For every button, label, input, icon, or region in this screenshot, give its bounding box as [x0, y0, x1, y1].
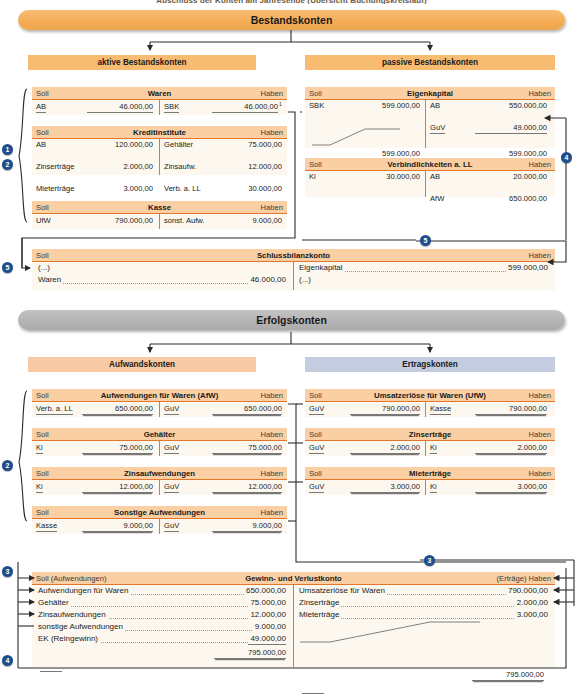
sbk-credit-label: Eigenkapital [299, 263, 345, 272]
label-haben: Haben [529, 89, 551, 98]
marker-2-left[interactable]: 2 [2, 460, 13, 471]
account-eigenkapital-body: SBK 599.000,00 AB 550.000,00 GuV 49.000,… [305, 100, 555, 148]
subheader-ertragskonten: Ertragskonten [305, 357, 555, 372]
label-haben: Haben [529, 251, 551, 260]
cell-credit-text: Gehälter [164, 140, 193, 149]
cell-debit-value: 30.000,00 [350, 172, 420, 181]
account-mietertraege-header: Soll Mieterträge Haben [305, 467, 555, 480]
account-kreditinstitute-body: AB 120.000,00 Gehälter 75.000,00 Zinsert… [32, 139, 287, 175]
label-soll: Soll [309, 469, 322, 478]
subheader-aktive-label: aktive Bestandskonten [97, 58, 186, 67]
cell-credit-value: 2.000,00 [475, 443, 547, 454]
cell-debit-text: GuV [309, 443, 324, 454]
account-verbindlichkeiten-header: Soll Verbindlichkeiten a. LL Haben [305, 158, 555, 171]
banner-erfolgskonten-label: Erfolgskonten [256, 314, 327, 326]
cell-credit-text: Ki [430, 482, 437, 493]
guv-credit-label: Zinserträge [299, 598, 341, 607]
account-sonstige-aufwendungen-body: Kasse 9.000,00 GuV 9.000,00 [32, 519, 287, 534]
guv-debit-label: sonstige Aufwendungen [38, 622, 125, 631]
account-kasse-header: Soll Kasse Haben [32, 201, 287, 214]
cell-credit-value: 49.000,00 [475, 123, 547, 134]
marker-4-right[interactable]: 4 [561, 152, 572, 163]
account-zinsaufwendungen: Soll Zinsaufwendungen Haben Ki 12.000,00… [32, 467, 287, 495]
cell-debit-value: 3.000,00 [350, 482, 420, 493]
guv-debit-row: Gehälter 75.000,00 [38, 598, 286, 610]
banner-bestandskonten-label: Bestandskonten [251, 14, 333, 26]
cell-credit-text: AfW [430, 194, 444, 203]
guv-credit-value: 2.000,00 [515, 598, 548, 607]
account-verbindlichkeiten-title: Verbindlichkeiten a. LL [305, 160, 555, 169]
marker-3-left[interactable]: 3 [2, 566, 13, 577]
cell-credit-text: GuV [164, 443, 179, 454]
cell-credit-value: 650.000,00 [212, 404, 282, 415]
marker-4-left[interactable]: 4 [2, 655, 13, 666]
cell-credit-text: Kasse [430, 404, 451, 415]
account-kasse-title: Kasse [32, 203, 287, 212]
account-eigenkapital: Soll Eigenkapital Haben SBK 599.000,00 A… [305, 87, 555, 148]
cell-debit-value: 790.000,00 [82, 216, 153, 225]
banner-bestandskonten: Bestandskonten [18, 10, 565, 30]
account-afw-header: Soll Aufwendungen für Waren (AfW) Haben [32, 389, 287, 402]
account-sonstige-aufwendungen-header: Soll Sonstige Aufwendungen Haben [32, 506, 287, 519]
marker-5-top[interactable]: 5 [420, 235, 431, 246]
account-guv-title: Gewinn- und Verlustkonto [32, 574, 555, 583]
cell-credit-text: GuV [164, 482, 179, 493]
account-sonstige-aufwendungen: Soll Sonstige Aufwendungen Haben Kasse 9… [32, 506, 287, 534]
account-kreditinstitute-title: Kreditinstitute [32, 128, 287, 137]
label-haben: Haben [261, 391, 283, 400]
cell-debit-value: 2.000,00 [82, 162, 153, 171]
cell-debit-text: UfW [36, 216, 51, 225]
sbk-credit-row: Eigenkapital 599.000,00 [299, 263, 548, 275]
marker-2[interactable]: 2 [2, 159, 13, 170]
account-afw-body: Verb. a. LL 650.000,00 GuV 650.000,00 [32, 402, 287, 417]
account-zinsertraege-title: Zinserträge [305, 430, 555, 439]
account-mietertraege-title: Mieterträge [305, 469, 555, 478]
cell-credit-value: 790.000,00 [475, 404, 547, 415]
account-waren: Soll Waren Haben AB 46.000,00 SBK 46.000… [32, 87, 287, 115]
guv-credit-row: Umsatzerlöse für Waren 790.000,00 [299, 586, 548, 598]
account-waren-title: Waren [32, 89, 287, 98]
label-ertraege-haben: (Erträge) Haben [497, 574, 551, 583]
marker-5-left[interactable]: 5 [2, 262, 13, 273]
cell-debit-value: 650.000,00 [82, 404, 153, 415]
sbk-credit-row: (...) [299, 275, 548, 287]
label-haben: Haben [261, 430, 283, 439]
account-schlussbilanzkonto-body: (...) Waren 46.000,00 Eigenkapital 599.0… [32, 262, 555, 290]
marker-1[interactable]: 1 [2, 144, 13, 155]
cell-credit-text: sonst. Aufw. [164, 216, 205, 225]
account-guv-header: Soll (Aufwendungen) Gewinn- und Verlustk… [32, 572, 555, 585]
label-haben: Haben [261, 128, 283, 137]
guv-debit-value: 49.000,00 [248, 634, 286, 645]
label-soll: Soll [36, 508, 49, 517]
label-soll: Soll [36, 203, 49, 212]
cell-credit-value: 12.000,00 [212, 162, 282, 171]
guv-debit-label: Gehälter [38, 598, 71, 607]
account-gehaelter-body: Ki 75.000,00 GuV 75.000,00 [32, 441, 287, 456]
label-soll: Soll [309, 391, 322, 400]
subheader-aufwandskonten: Aufwandskonten [28, 357, 256, 372]
label-soll: Soll [309, 430, 322, 439]
account-zinsaufwendungen-body: Ki 12.000,00 GuV 12.000,00 [32, 480, 287, 495]
cell-debit-text: Mieterträge [36, 184, 74, 193]
account-afw: Soll Aufwendungen für Waren (AfW) Haben … [32, 389, 287, 417]
cell-credit-value: 9.000,00 [212, 216, 282, 225]
cell-debit-text: Zinserträge [36, 162, 74, 171]
cell-debit-text: AB [36, 140, 46, 149]
guv-debit-label: EK (Reingewinn) [38, 634, 100, 643]
cell-credit-text: GuV [430, 123, 445, 134]
guv-credit-row: Mieterträge 3.000,00 [299, 610, 548, 622]
sbk-debit-label: (...) [38, 263, 52, 272]
cell-credit-text: GuV [164, 404, 179, 415]
account-guv-body: Aufwendungen für Waren 650.000,00 Gehält… [32, 585, 555, 667]
account-schlussbilanzkonto-header: Soll Schlussbilanzkonto Haben [32, 249, 555, 262]
cell-credit-value: 550.000,00 [475, 101, 547, 110]
label-haben: Haben [529, 391, 551, 400]
marker-3-top[interactable]: 3 [424, 555, 435, 566]
label-soll-aufwendungen: Soll (Aufwendungen) [36, 574, 107, 583]
account-zinsertraege-header: Soll Zinserträge Haben [305, 428, 555, 441]
account-zinsaufwendungen-title: Zinsaufwendungen [32, 469, 287, 478]
guv-credit-value: 790.000,00 [506, 586, 548, 595]
cell-debit-text: Ki [36, 443, 43, 454]
account-ufw: Soll Umsatzerlöse für Waren (UfW) Haben … [305, 389, 555, 417]
